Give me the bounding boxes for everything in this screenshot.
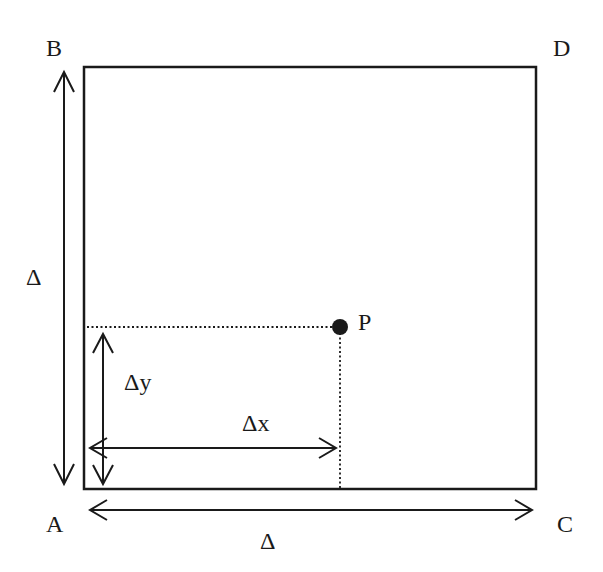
side-vertical-arrow bbox=[54, 72, 74, 484]
side-vertical-label: Δ bbox=[26, 264, 41, 290]
corner-label-a: A bbox=[46, 511, 64, 537]
corner-label-c: C bbox=[557, 511, 573, 537]
side-horizontal-label: Δ bbox=[260, 528, 275, 554]
side-horizontal-arrow bbox=[90, 500, 532, 520]
dy-label: Δy bbox=[124, 369, 151, 395]
dx-label: Δx bbox=[242, 410, 269, 436]
dx-arrow bbox=[90, 438, 336, 458]
diagram-canvas: B D A C P Δ Δ Δy Δx bbox=[0, 0, 603, 572]
square-outline bbox=[84, 67, 536, 489]
point-label-p: P bbox=[358, 309, 371, 335]
point-p-marker bbox=[332, 319, 348, 335]
corner-label-b: B bbox=[46, 35, 62, 61]
dy-arrow bbox=[93, 334, 113, 484]
corner-label-d: D bbox=[553, 35, 570, 61]
